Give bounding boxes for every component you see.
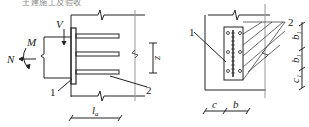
label-b1-top: b1	[289, 31, 303, 40]
label-c1: c1	[289, 75, 303, 83]
callout-1-left: 1	[50, 86, 56, 98]
label-n: N	[6, 53, 15, 65]
callout-1-right: 1	[189, 26, 195, 38]
embedded-anchor-diagram: V M N z la 1 2 1 2 b1 b1 c1 c b	[0, 0, 309, 127]
label-b1-mid: b1	[289, 54, 303, 63]
label-m: M	[26, 36, 37, 48]
label-b: b	[233, 98, 239, 110]
label-la: la	[92, 104, 99, 118]
callout-2-right: 2	[288, 16, 294, 28]
label-z: z	[150, 55, 162, 61]
label-v: V	[56, 18, 64, 30]
callout-2-left: 2	[146, 84, 152, 96]
label-c: c	[212, 98, 217, 110]
